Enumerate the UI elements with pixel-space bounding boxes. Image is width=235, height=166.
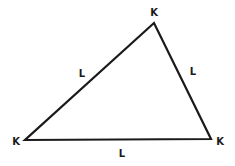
vertex-label-top: K (150, 7, 159, 18)
edge-label-right: L (190, 66, 197, 77)
triangle-shape (25, 23, 211, 140)
triangle-diagram: K K K L L L (0, 0, 235, 166)
edge-label-left: L (79, 68, 86, 79)
edge-label-bottom: L (119, 148, 126, 159)
vertex-label-bottom-right: K (216, 136, 225, 147)
vertex-label-bottom-left: K (12, 136, 21, 147)
